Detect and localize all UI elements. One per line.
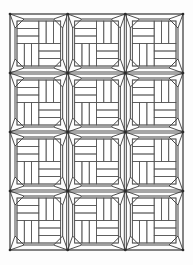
block-r1c1[interactable] [10, 14, 68, 73]
ray-bl2 [10, 236, 15, 250]
ray-tl2 [10, 191, 15, 205]
pattern-diagram [0, 0, 193, 265]
junction-node [124, 249, 127, 252]
junction-node [66, 72, 69, 75]
ray-tl [68, 14, 82, 19]
block-r1c2[interactable] [68, 14, 126, 73]
ray-tr2 [178, 14, 183, 28]
ray-br2 [178, 118, 183, 132]
block-r2c3[interactable] [125, 73, 183, 132]
junction-node [182, 131, 185, 134]
block-r3c1[interactable] [10, 132, 68, 191]
diagram-page [0, 0, 193, 265]
ray-bl2 [10, 118, 15, 132]
junction-node [182, 249, 185, 252]
block-r3c2[interactable] [68, 132, 126, 191]
ray-bl2 [10, 59, 15, 73]
block-grid [10, 14, 183, 250]
ray-tl [10, 14, 24, 19]
diagram-layers [9, 13, 185, 252]
ray-tr [169, 14, 183, 19]
block-r3c3[interactable] [125, 132, 183, 191]
ray-tr2 [178, 73, 183, 87]
ray-tr2 [178, 132, 183, 146]
junction-node [124, 190, 127, 193]
ray-tl2 [10, 14, 15, 28]
junction-node [9, 190, 12, 193]
block-r4c1[interactable] [10, 191, 68, 250]
junction-node [124, 131, 127, 134]
ray-bl2 [10, 177, 15, 191]
ray-br2 [178, 236, 183, 250]
block-r4c3[interactable] [125, 191, 183, 250]
ray-br2 [178, 59, 183, 73]
ray-tr [111, 14, 125, 19]
junction-node [66, 13, 69, 16]
ray-tl2 [10, 73, 15, 87]
junction-node [66, 190, 69, 193]
block-r2c1[interactable] [10, 73, 68, 132]
ray-bl [68, 245, 82, 250]
ray-tr2 [178, 191, 183, 205]
junction-node [182, 190, 185, 193]
junction-node [182, 72, 185, 75]
junction-node [66, 249, 69, 252]
ray-br [111, 245, 125, 250]
junction-node [124, 72, 127, 75]
ray-br [54, 245, 68, 250]
block-r1c3[interactable] [125, 14, 183, 73]
ray-br [169, 245, 183, 250]
ray-tl2 [10, 132, 15, 146]
ray-bl [10, 245, 24, 250]
junction-node [182, 13, 185, 16]
junction-node [66, 131, 69, 134]
junction-node [124, 13, 127, 16]
ray-br2 [178, 177, 183, 191]
ray-bl [125, 245, 139, 250]
junction-node [9, 72, 12, 75]
junction-node [9, 13, 12, 16]
block-r4c2[interactable] [68, 191, 126, 250]
ray-tr [54, 14, 68, 19]
ray-tl [125, 14, 139, 19]
junction-node [9, 249, 12, 252]
junction-node [9, 131, 12, 134]
block-r2c2[interactable] [68, 73, 126, 132]
